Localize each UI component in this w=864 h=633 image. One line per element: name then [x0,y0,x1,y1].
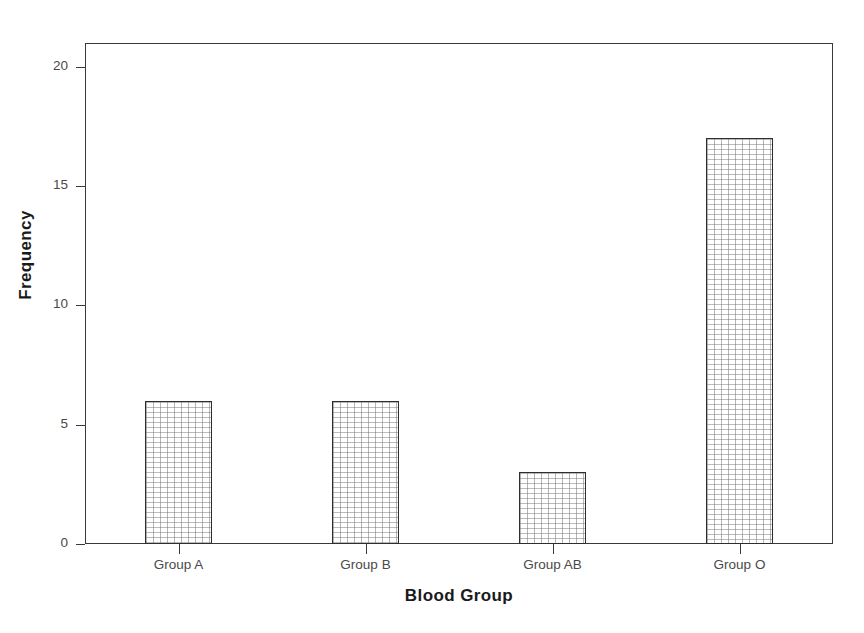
plot-area [85,43,833,544]
y-axis-tick-label: 20 [30,59,68,73]
bar [145,401,212,544]
y-axis-tick [76,67,85,68]
x-axis-tick-label: Group A [99,558,259,573]
x-axis-tick [179,544,180,554]
y-axis-tick [76,305,85,306]
bar [706,138,773,544]
x-axis-tick-label: Group AB [473,558,633,573]
bar-chart: 05101520 Group AGroup BGroup ABGroup O B… [0,0,864,633]
bar [519,472,586,544]
x-axis-tick-label: Group B [286,558,446,573]
bar [332,401,399,544]
y-axis-title: Frequency [16,185,36,325]
x-axis-tick [366,544,367,554]
x-axis-tick-label: Group O [660,558,820,573]
x-axis-tick [740,544,741,554]
x-axis-tick [553,544,554,554]
y-axis-tick-label: 0 [30,536,68,550]
x-axis-title: Blood Group [85,586,833,606]
y-axis-tick [76,425,85,426]
y-axis-tick-label: 5 [30,417,68,431]
y-axis-tick [76,186,85,187]
y-axis-tick [76,544,85,545]
